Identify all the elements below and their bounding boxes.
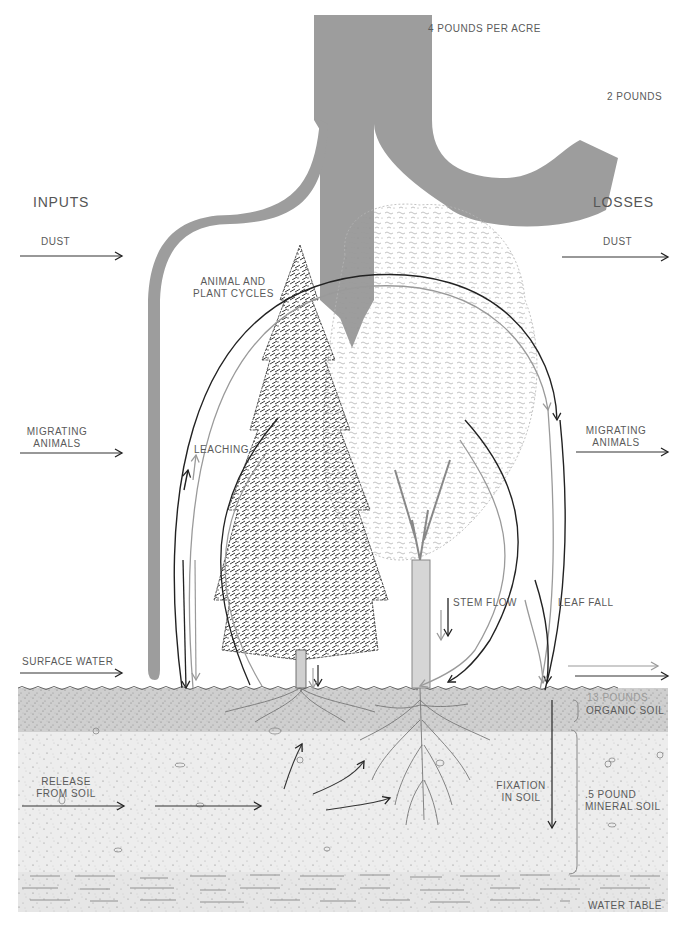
stem-flow-label: STEM FLOW: [453, 597, 517, 609]
fixation-in-soil-label: FIXATION IN SOIL: [496, 780, 546, 804]
loss-dust-label: DUST: [603, 236, 632, 248]
input-surface-water-label: SURFACE WATER: [22, 656, 114, 668]
losses-heading: LOSSES: [593, 196, 654, 208]
loss-arrows: [562, 257, 668, 676]
water-table-label: WATER TABLE: [588, 900, 662, 912]
top-flow-amount-label: 4 POUNDS PER ACRE: [428, 23, 541, 35]
input-migrating-animals-label: MIGRATING ANIMALS: [26, 426, 88, 450]
leaching-label: LEACHING: [194, 444, 249, 456]
leaf-fall-label: LEAF FALL: [558, 597, 614, 609]
mineral-soil-label: .5 POUND MINERAL SOIL: [585, 789, 661, 813]
input-dust-label: DUST: [41, 236, 70, 248]
organic-soil-amount: 13 POUNDS: [587, 692, 648, 704]
diagram-artwork: [0, 0, 687, 933]
side-flow-amount-label: 2 POUNDS: [607, 91, 662, 103]
animal-plant-cycles-label: ANIMAL AND PLANT CYCLES: [193, 276, 273, 300]
inputs-heading: INPUTS: [33, 196, 89, 208]
nutrient-cycle-diagram: 4 POUNDS PER ACRE 2 POUNDS INPUTS LOSSES…: [0, 0, 687, 933]
organic-soil-label: ORGANIC SOIL: [586, 705, 664, 717]
release-from-soil-label: RELEASE FROM SOIL: [30, 776, 102, 800]
loss-migrating-animals-label: MIGRATING ANIMALS: [584, 425, 648, 449]
